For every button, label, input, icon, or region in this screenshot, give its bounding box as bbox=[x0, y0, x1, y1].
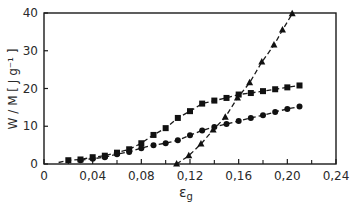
x-axis-title-sub: g bbox=[187, 191, 193, 202]
y-tick-label: 20 bbox=[23, 82, 38, 96]
circle-marker bbox=[272, 109, 278, 115]
circle-marker bbox=[224, 121, 230, 127]
plot-area-border bbox=[44, 13, 336, 164]
y-axis-title: W / M [ J g⁻¹ ] bbox=[6, 49, 20, 130]
x-tick-label: 0,24 bbox=[323, 169, 350, 183]
x-axis-title: εg bbox=[179, 184, 193, 202]
square-marker bbox=[284, 84, 290, 90]
y-tick-label: 40 bbox=[23, 6, 38, 20]
x-tick-label: 0,20 bbox=[274, 169, 301, 183]
square-marker bbox=[163, 125, 169, 131]
x-axis-ticks: 00,040,080,120,160,200,24 bbox=[40, 159, 349, 183]
y-tick-label: 10 bbox=[23, 119, 38, 133]
circle-marker bbox=[90, 156, 96, 162]
plot-frame bbox=[44, 13, 336, 164]
square-marker bbox=[224, 95, 230, 101]
x-tick-label: 0,16 bbox=[225, 169, 252, 183]
x-tick-label: 0,08 bbox=[128, 169, 155, 183]
circle-marker bbox=[114, 151, 120, 157]
x-axis-title-main: ε bbox=[179, 184, 187, 200]
circle-marker bbox=[199, 127, 205, 133]
circle-marker bbox=[151, 142, 157, 148]
series-squares bbox=[59, 82, 303, 163]
x-tick-label: 0 bbox=[40, 169, 48, 183]
chart: 00,040,080,120,160,200,24 010203040 W / … bbox=[0, 0, 354, 204]
square-marker bbox=[297, 82, 303, 88]
triangle-marker bbox=[173, 160, 180, 167]
square-marker bbox=[260, 88, 266, 94]
square-marker bbox=[211, 98, 217, 104]
circle-marker bbox=[236, 118, 242, 124]
dashed-fit-line bbox=[59, 85, 302, 163]
square-marker bbox=[199, 101, 205, 107]
y-tick-label: 30 bbox=[23, 44, 38, 58]
y-tick-label: 0 bbox=[30, 157, 38, 171]
circle-marker bbox=[284, 106, 290, 112]
square-marker bbox=[248, 90, 254, 96]
square-marker bbox=[272, 86, 278, 92]
x-tick-label: 0,12 bbox=[177, 169, 204, 183]
circle-marker bbox=[175, 137, 181, 143]
square-marker bbox=[187, 108, 193, 114]
circle-marker bbox=[126, 149, 132, 155]
circle-marker bbox=[187, 132, 193, 138]
circle-marker bbox=[297, 104, 303, 110]
square-marker bbox=[175, 115, 181, 121]
circle-marker bbox=[78, 157, 84, 163]
square-marker bbox=[65, 157, 71, 163]
circle-marker bbox=[248, 115, 254, 121]
data-series bbox=[59, 10, 303, 167]
circle-marker bbox=[102, 154, 108, 160]
square-marker bbox=[151, 132, 157, 138]
triangle-marker bbox=[270, 41, 277, 48]
circle-marker bbox=[163, 140, 169, 146]
circle-marker bbox=[260, 112, 266, 118]
circle-marker bbox=[138, 145, 144, 151]
x-tick-label: 0,04 bbox=[79, 169, 106, 183]
triangle-marker bbox=[222, 113, 229, 120]
